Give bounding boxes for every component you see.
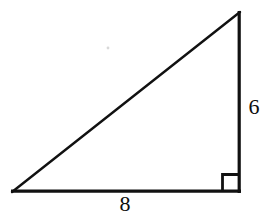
side-label-vertical-leg: 6 [244, 96, 264, 118]
right-triangle-figure: 6 8 [0, 0, 268, 216]
triangle-drawing-canvas [0, 0, 268, 216]
scan-speck-artifact [107, 47, 110, 50]
side-label-horizontal-leg: 8 [112, 193, 138, 215]
figure-background [0, 0, 268, 216]
